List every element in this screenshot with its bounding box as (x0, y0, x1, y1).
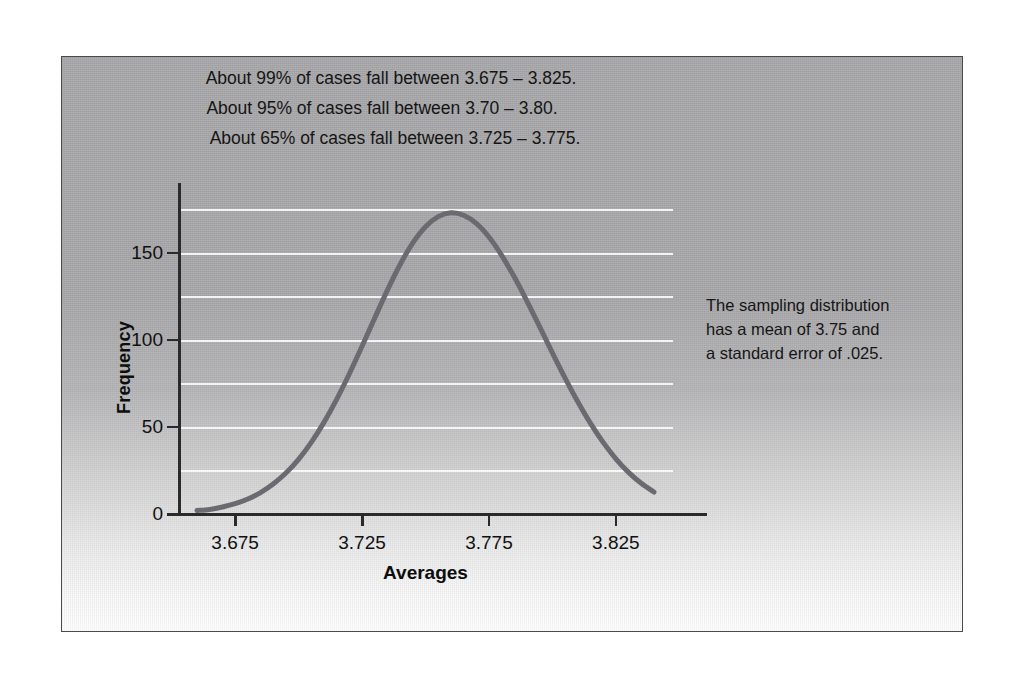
plot-area (178, 183, 673, 514)
annotation-right-line-2: has a mean of 3.75 and (706, 317, 941, 341)
y-axis-title: Frequency (114, 298, 135, 438)
annotation-right-line-3: a standard error of .025. (706, 341, 941, 365)
distribution-curve (178, 183, 673, 514)
annotation-right-line-1: The sampling distribution (706, 293, 941, 317)
y-axis-tick (167, 339, 179, 342)
x-axis-tick-label: 3.825 (556, 533, 676, 553)
x-axis-title: Averages (178, 562, 673, 584)
x-axis-tick (615, 513, 618, 526)
x-axis-tick-label: 3.675 (175, 533, 295, 553)
y-axis-tick (167, 426, 179, 429)
annotation-block-right: The sampling distribution has a mean of … (706, 293, 941, 365)
x-axis-tick (361, 513, 364, 526)
figure-panel: About 99% of cases fall between 3.675 – … (61, 56, 963, 632)
x-axis-tick-label: 3.775 (429, 533, 549, 553)
y-axis-tick (167, 252, 179, 255)
x-axis-tick-label: 3.725 (302, 533, 422, 553)
x-axis-tick (488, 513, 491, 526)
y-axis-tick (167, 513, 179, 516)
y-axis-line (178, 183, 181, 516)
x-axis-line (178, 513, 707, 516)
y-axis-tick-labels: 050100150 (62, 57, 163, 632)
y-axis-tick-label: 150 (103, 243, 163, 262)
x-axis-tick (234, 513, 237, 526)
y-axis-tick-label: 0 (103, 504, 163, 523)
